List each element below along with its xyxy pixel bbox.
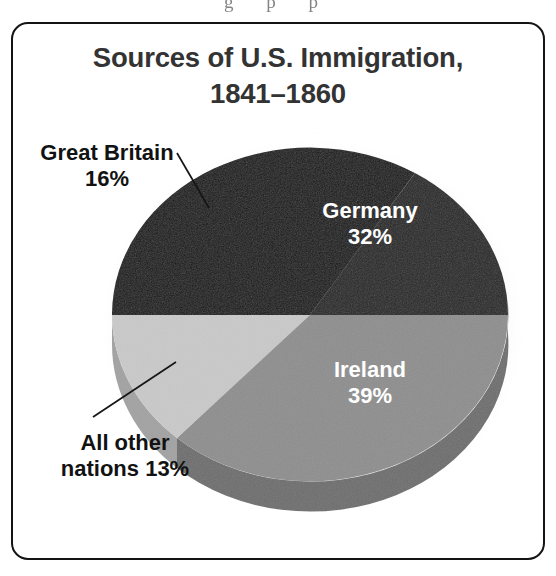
callout-all-other-nations-line1: All other [30,430,220,456]
slice-callout-great-britain: Great Britain 16% [22,140,192,191]
callout-all-other-nations-line2: nations 13% [30,456,220,482]
slice-label-ireland: Ireland 39% [300,357,440,409]
slice-label-ireland-percent: 39% [300,383,440,409]
callout-great-britain-percent: 16% [22,166,192,192]
slice-label-germany-percent: 32% [300,224,440,250]
page-top-text-remnant: g p p [0,0,556,13]
slice-label-germany-name: Germany [300,198,440,224]
callout-great-britain-name: Great Britain [22,140,192,166]
slice-callout-all-other-nations: All other nations 13% [30,430,220,481]
slice-label-germany: Germany 32% [300,198,440,250]
slice-label-ireland-name: Ireland [300,357,440,383]
